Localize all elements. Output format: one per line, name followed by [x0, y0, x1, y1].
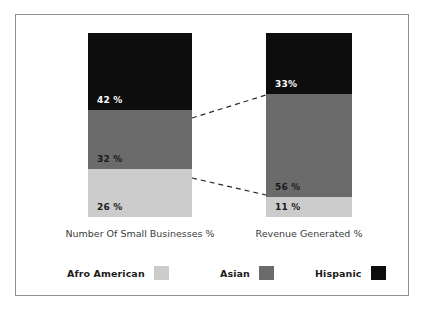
bar-segment-asian[interactable]: 56 % [266, 94, 352, 197]
legend-swatch-afro-american [154, 266, 169, 280]
bar-segment-afro-american[interactable]: 11 % [266, 197, 352, 217]
bar-segment-hispanic[interactable]: 33% [266, 33, 352, 94]
category-label-number-of-small-businesses: Number Of Small Businesses % [48, 228, 232, 239]
bar-segment-hispanic[interactable]: 42 % [88, 33, 192, 110]
bar-segment-label: 33% [275, 79, 297, 89]
legend-swatch-hispanic [371, 266, 386, 280]
bar-segment-afro-american[interactable]: 26 % [88, 169, 192, 217]
connector-line-hispanic [192, 95, 266, 118]
bar-segment-asian[interactable]: 32 % [88, 110, 192, 169]
bar-segment-label: 42 % [97, 95, 122, 105]
bar-segment-label: 56 % [275, 182, 300, 192]
chart-root: 42 % 32 % 26 % 33% 56 % 11 % [0, 0, 423, 310]
legend-item-label: Asian [220, 268, 250, 279]
bar-segment-label: 26 % [97, 202, 122, 212]
bar-segment-label: 11 % [275, 202, 300, 212]
legend-swatch-asian [259, 266, 274, 280]
legend-item-hispanic[interactable]: Hispanic [315, 262, 386, 284]
bar-stack-revenue-generated: 33% 56 % 11 % [266, 33, 352, 217]
bar-stack-number-of-small-businesses: 42 % 32 % 26 % [88, 33, 192, 217]
connector-line-asian [192, 178, 266, 195]
category-label-revenue-generated: Revenue Generated % [245, 228, 373, 239]
legend-item-asian[interactable]: Asian [220, 262, 274, 284]
legend-item-label: Hispanic [315, 268, 362, 279]
legend-item-afro-american[interactable]: Afro American [67, 262, 169, 284]
chart-legend: Afro American Asian Hispanic [15, 262, 409, 284]
legend-item-label: Afro American [67, 268, 145, 279]
bar-segment-label: 32 % [97, 154, 122, 164]
